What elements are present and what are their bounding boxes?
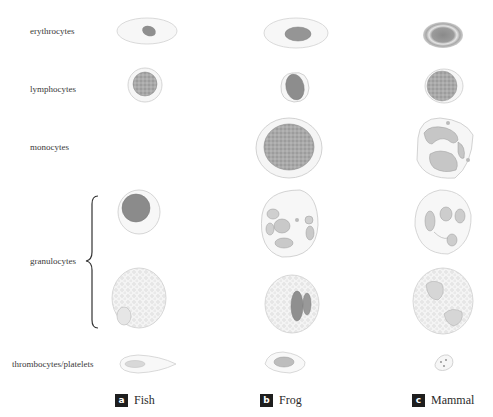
frog-thrombocyte bbox=[265, 352, 305, 373]
frog-monocyte bbox=[256, 118, 322, 178]
fish-granulocyte-2 bbox=[112, 268, 166, 328]
mammal-monocyte bbox=[417, 118, 473, 178]
mammal-granulocyte-1 bbox=[415, 190, 471, 254]
column-badge-c: c bbox=[412, 394, 425, 407]
cell-illustrations bbox=[0, 0, 493, 417]
fish-thrombocyte bbox=[120, 355, 176, 373]
frog-erythrocyte bbox=[264, 18, 328, 48]
fish-lymphocyte bbox=[128, 68, 162, 102]
mammal-granulocyte-2 bbox=[413, 268, 473, 334]
frog-lymphocyte bbox=[281, 72, 309, 102]
column-title-mammal: Mammal bbox=[431, 393, 474, 408]
column-label-fish: a Fish bbox=[115, 393, 155, 408]
mammal-platelet bbox=[435, 355, 453, 371]
frog-granulocyte-1 bbox=[261, 190, 318, 257]
column-title-fish: Fish bbox=[134, 393, 155, 408]
frog-granulocyte-2 bbox=[265, 275, 319, 333]
column-label-mammal: c Mammal bbox=[412, 393, 474, 408]
column-badge-a: a bbox=[115, 394, 128, 407]
fish-erythrocyte bbox=[117, 18, 177, 44]
column-title-frog: Frog bbox=[279, 393, 302, 408]
column-badge-b: b bbox=[260, 394, 273, 407]
fish-granulocyte-1 bbox=[118, 190, 160, 234]
granulocytes-brace bbox=[86, 196, 98, 328]
column-label-frog: b Frog bbox=[260, 393, 302, 408]
mammal-erythrocyte bbox=[423, 22, 463, 48]
mammal-lymphocyte bbox=[425, 69, 463, 103]
